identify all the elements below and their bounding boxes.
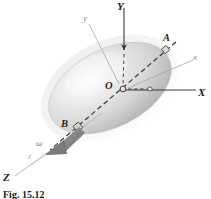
figure-container: Y y A x X O B ω z Z Fig. 15.12 (0, 0, 211, 199)
omega-label: ω (36, 139, 42, 148)
A-point-label: A (163, 33, 170, 44)
y-body-axis-label: y (83, 14, 87, 23)
origin-marker (120, 86, 126, 92)
body-z-axis-faint (30, 156, 44, 166)
B-point-label: B (61, 119, 68, 130)
Z-axis-label: Z (3, 172, 10, 183)
figure-drawing (0, 0, 211, 199)
figure-caption: Fig. 15.12 (3, 189, 44, 199)
X-axis-label: X (198, 87, 205, 98)
O-origin-label: O (105, 81, 113, 92)
z-body-axis-label: z (28, 152, 31, 161)
x-body-axis-label: x (193, 53, 197, 62)
Y-axis-label: Y (117, 1, 124, 12)
